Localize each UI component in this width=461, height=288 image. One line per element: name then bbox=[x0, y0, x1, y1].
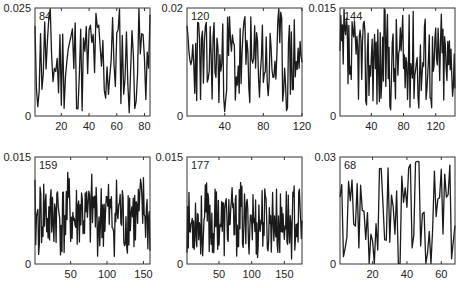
x-tick-label: 60 bbox=[435, 268, 447, 280]
x-tick-label: 80 bbox=[397, 120, 409, 132]
x-tick-label: 150 bbox=[134, 268, 152, 280]
subplot-144: 408012000.015144 bbox=[308, 2, 455, 132]
y-tick-label-max: 0.015 bbox=[3, 151, 31, 163]
subplot-84: 2040608000.02584 bbox=[3, 2, 150, 132]
subplot-159: 5010015000.015159 bbox=[3, 151, 152, 280]
subplot-177: 5010015000.015177 bbox=[155, 151, 302, 280]
x-tick-label: 100 bbox=[243, 268, 261, 280]
x-tick-label: 50 bbox=[213, 268, 225, 280]
x-tick-label: 40 bbox=[365, 120, 377, 132]
x-tick-label: 80 bbox=[138, 120, 150, 132]
x-tick-label: 150 bbox=[275, 268, 293, 280]
figure: 2040608000.02584408012000.02120408012000… bbox=[0, 0, 461, 288]
panel-label: 68 bbox=[344, 159, 356, 171]
panel-label: 177 bbox=[191, 159, 209, 171]
y-tick-label-max: 0.025 bbox=[3, 2, 31, 14]
y-tick-label-max: 0.015 bbox=[155, 151, 183, 163]
x-tick-label: 100 bbox=[98, 268, 116, 280]
subplot-120: 408012000.02120 bbox=[162, 2, 312, 132]
series-line bbox=[187, 9, 302, 112]
y-tick-label-max: 0.015 bbox=[308, 2, 336, 14]
y-tick-label-max: 0.03 bbox=[315, 151, 336, 163]
y-tick-label-min: 0 bbox=[330, 110, 336, 122]
x-tick-label: 20 bbox=[55, 120, 67, 132]
y-tick-label-min: 0 bbox=[177, 110, 183, 122]
panel-label: 120 bbox=[191, 10, 209, 22]
series-line bbox=[35, 172, 150, 256]
y-tick-label-max: 0.02 bbox=[162, 2, 183, 14]
x-tick-label: 40 bbox=[219, 120, 231, 132]
x-tick-label: 120 bbox=[293, 120, 311, 132]
series-line bbox=[340, 9, 455, 110]
panel-label: 84 bbox=[39, 10, 51, 22]
y-tick-label-min: 0 bbox=[25, 110, 31, 122]
x-tick-label: 40 bbox=[83, 120, 95, 132]
y-tick-label-min: 0 bbox=[330, 258, 336, 270]
x-tick-label: 40 bbox=[401, 268, 413, 280]
subplot-68: 20406000.0368 bbox=[315, 151, 455, 280]
panel-label: 159 bbox=[39, 159, 57, 171]
series-line bbox=[340, 161, 455, 263]
x-tick-label: 60 bbox=[111, 120, 123, 132]
x-tick-label: 120 bbox=[427, 120, 445, 132]
x-tick-label: 50 bbox=[65, 268, 77, 280]
panel-label: 144 bbox=[344, 10, 362, 22]
y-tick-label-min: 0 bbox=[177, 258, 183, 270]
series-line bbox=[187, 182, 302, 259]
series-line bbox=[35, 9, 150, 113]
x-tick-label: 20 bbox=[366, 268, 378, 280]
y-tick-label-min: 0 bbox=[25, 258, 31, 270]
x-tick-label: 80 bbox=[257, 120, 269, 132]
